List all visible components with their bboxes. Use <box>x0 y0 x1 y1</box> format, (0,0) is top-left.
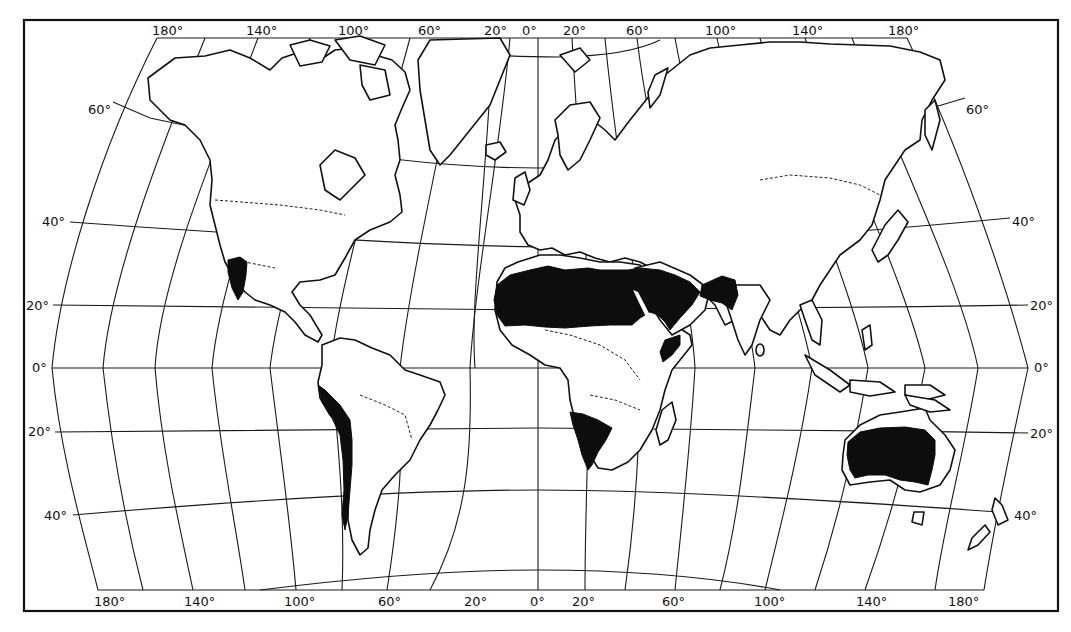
south-america <box>318 338 445 555</box>
lon-label-bottom: 180° <box>94 594 125 609</box>
lon-label-top: 60° <box>626 23 649 38</box>
lat-label-left: 40° <box>42 214 65 229</box>
new-zealand <box>992 498 1008 525</box>
desert-north-america <box>228 257 247 300</box>
lat-label-left: 0° <box>32 360 47 375</box>
lon-label-top: 20° <box>484 23 507 38</box>
lat-label-right: 20° <box>1030 426 1053 441</box>
lon-label-bottom: 0° <box>530 594 545 609</box>
lon-label-bottom: 140° <box>856 594 887 609</box>
iceland <box>486 142 506 160</box>
lon-label-bottom: 20° <box>572 594 595 609</box>
lat-label-right: 20° <box>1030 298 1053 313</box>
lat-label-left: 40° <box>44 508 67 523</box>
lon-label-top: 0° <box>522 23 537 38</box>
lat-label-right: 60° <box>966 102 989 117</box>
lon-label-bottom: 20° <box>464 594 487 609</box>
right-latitude-labels: 60° 40° 20° 0° 20° 40° <box>966 102 1053 523</box>
lon-label-top: 180° <box>888 23 919 38</box>
lon-label-top: 180° <box>152 23 183 38</box>
lat-label-right: 40° <box>1014 508 1037 523</box>
top-longitude-labels: 180° 140° 100° 60° 20° 0° 20° 60° 100° 1… <box>152 23 919 38</box>
world-desert-map: 180° 140° 100° 60° 20° 0° 20° 60° 100° 1… <box>0 0 1071 632</box>
japan <box>872 210 908 262</box>
lat-label-right: 40° <box>1012 214 1035 229</box>
desert-sahara-arabia <box>494 266 700 330</box>
lon-label-top: 140° <box>792 23 823 38</box>
desert-australia <box>847 427 935 485</box>
lon-label-bottom: 60° <box>662 594 685 609</box>
lon-label-top: 60° <box>418 23 441 38</box>
lat-label-left: 60° <box>88 102 111 117</box>
lat-label-left: 20° <box>28 424 51 439</box>
bottom-longitude-labels: 180° 140° 100° 60° 20° 0° 20° 60° 100° 1… <box>94 594 979 609</box>
lon-label-top: 20° <box>563 23 586 38</box>
lon-label-bottom: 140° <box>184 594 215 609</box>
left-latitude-labels: 60° 40° 20° 0° 20° 40° <box>26 102 111 523</box>
lon-label-top: 100° <box>705 23 736 38</box>
lon-label-bottom: 60° <box>378 594 401 609</box>
lon-label-top: 100° <box>338 23 369 38</box>
lon-label-top: 140° <box>246 23 277 38</box>
lon-label-bottom: 180° <box>948 594 979 609</box>
lat-label-left: 20° <box>26 298 49 313</box>
lon-label-bottom: 100° <box>754 594 785 609</box>
lat-label-right: 0° <box>1034 360 1049 375</box>
lon-label-bottom: 100° <box>284 594 315 609</box>
